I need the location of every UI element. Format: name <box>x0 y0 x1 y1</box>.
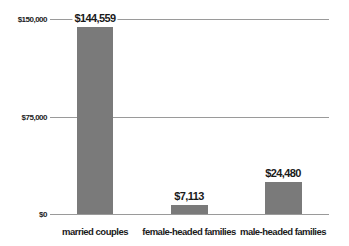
bar-married-couples <box>77 27 113 214</box>
baseline-axis <box>50 214 329 215</box>
x-label-female-headed-families: female-headed families <box>142 226 236 237</box>
y-tick-150000: $150,000 <box>18 15 47 24</box>
x-label-married-couples: married couples <box>62 226 128 237</box>
value-label-male-headed-families: $24,480 <box>263 167 303 179</box>
bar-chart: $150,000 $75,000 $0 $144,559 $7,113 $24,… <box>0 0 349 246</box>
y-tick-75000: $75,000 <box>22 113 47 122</box>
y-tick-0: $0 <box>39 210 47 219</box>
bar-male-headed-families <box>265 182 302 214</box>
value-label-female-headed-families: $7,113 <box>172 190 205 202</box>
bar-female-headed-families <box>171 205 208 214</box>
value-label-married-couples: $144,559 <box>72 12 117 24</box>
x-label-male-headed-families: male-headed families <box>240 226 326 237</box>
